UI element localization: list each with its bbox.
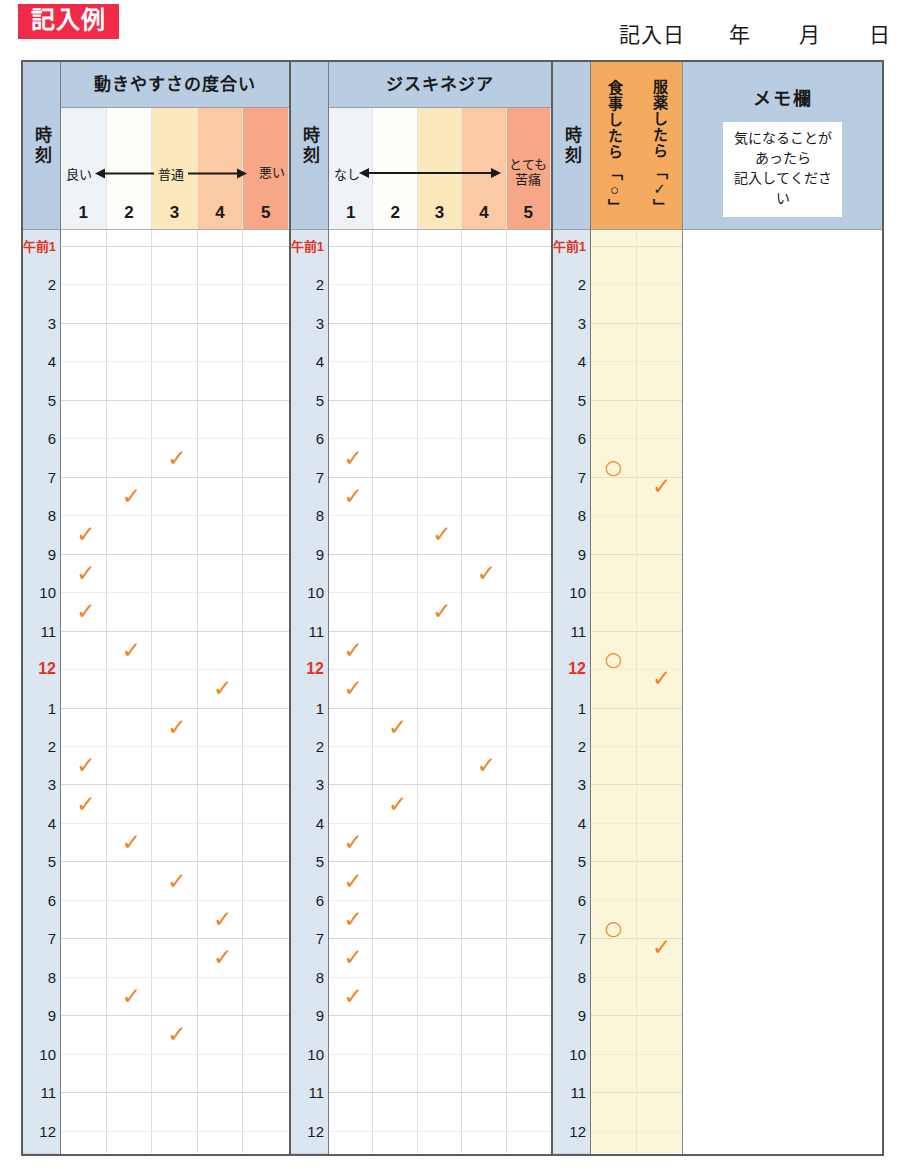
time-label-1: 2 <box>578 277 586 292</box>
medication-header-cell: 服薬したら 「✓」 <box>637 62 683 229</box>
grid-hline-18 <box>61 938 289 939</box>
scale-number-4: 4 <box>462 203 505 223</box>
time-label-21: 10 <box>307 1046 324 1061</box>
time-label-14: 3 <box>578 777 586 792</box>
grid-hline-5 <box>329 438 551 439</box>
time-label-0: 午前1 <box>23 240 56 253</box>
grid-hline-15 <box>61 823 289 824</box>
time-label-13: 2 <box>48 738 56 753</box>
mm-hline-17 <box>637 900 682 901</box>
mm-hline-6 <box>637 477 682 478</box>
scale-number-3: 3 <box>418 203 461 223</box>
mm-hline-16 <box>591 861 636 862</box>
grid-hline-9 <box>329 592 551 593</box>
grid-hline-12 <box>329 708 551 709</box>
grid-hline-16 <box>329 861 551 862</box>
time-labels-mobility: 午前123456789101112123456789101112 <box>23 230 60 1153</box>
dyskinesia-grid[interactable]: ✓✓✓✓✓✓✓✓✓✓✓✓✓✓✓ <box>329 230 551 1153</box>
medication-column[interactable]: ✓✓✓ <box>637 230 682 1153</box>
grid-hline-21 <box>61 1054 289 1055</box>
mm-hline-3 <box>591 361 636 362</box>
mm-hline-6 <box>591 477 636 478</box>
grid-hline-23 <box>61 1131 289 1132</box>
mm-hline-19 <box>591 977 636 978</box>
time-label-6: 7 <box>316 469 324 484</box>
time-label-22: 11 <box>570 1085 586 1100</box>
memo-writing-area[interactable] <box>683 230 882 1153</box>
mm-hline-21 <box>637 1054 682 1055</box>
scale-number-3: 3 <box>152 203 197 223</box>
mm-hline-14 <box>591 784 636 785</box>
time-label-1: 2 <box>316 277 324 292</box>
grid-hline-20 <box>329 1015 551 1016</box>
mm-hline-11 <box>591 669 636 670</box>
mm-hline-5 <box>637 438 682 439</box>
day-unit: 日 <box>869 18 891 48</box>
time-labels-mealmed: 午前123456789101112123456789101112 <box>553 230 590 1153</box>
grid-hline-18 <box>329 938 551 939</box>
mm-hline-13 <box>637 746 682 747</box>
mobility-grid[interactable]: ✓✓✓✓✓✓✓✓✓✓✓✓✓✓✓✓ <box>61 230 289 1153</box>
time-label-12: 1 <box>48 700 56 715</box>
scale-col-3: 3 <box>418 108 462 229</box>
time-label-12: 1 <box>316 700 324 715</box>
time-label-20: 9 <box>48 1008 56 1023</box>
scale-number-1: 1 <box>329 203 372 223</box>
mm-hline-22 <box>591 1092 636 1093</box>
time-label-17: 6 <box>316 892 324 907</box>
grid-hline-2 <box>329 323 551 324</box>
dyskinesia-title: ジスキネジア <box>329 62 551 108</box>
time-header-label-2: 時刻 <box>297 126 322 166</box>
time-label-11: 12 <box>38 661 56 677</box>
time-label-15: 4 <box>316 815 324 830</box>
grid-hline-4 <box>329 400 551 401</box>
time-label-7: 8 <box>48 508 56 523</box>
time-label-9: 10 <box>307 585 324 600</box>
grid-hline-14 <box>329 784 551 785</box>
grid-hline-8 <box>61 554 289 555</box>
grid-hline-13 <box>329 746 551 747</box>
scale-col-2: 2 <box>107 108 153 229</box>
mobility-time-column: 時刻 午前123456789101112123456789101112 <box>23 62 61 1154</box>
mm-hline-16 <box>637 861 682 862</box>
mm-hline-10 <box>591 631 636 632</box>
mm-hline-15 <box>591 823 636 824</box>
memo-header: メモ欄 気になることが あったら 記入してください <box>683 62 882 230</box>
grid-hline-12 <box>61 708 289 709</box>
time-label-7: 8 <box>316 508 324 523</box>
grid-hline-0 <box>61 246 289 247</box>
mm-hline-19 <box>637 977 682 978</box>
scale-col-1: 1 <box>329 108 373 229</box>
mm-hline-5 <box>591 438 636 439</box>
time-label-1: 2 <box>48 277 56 292</box>
mm-hline-17 <box>591 900 636 901</box>
time-label-21: 10 <box>39 1046 56 1061</box>
mealmed-grid[interactable]: ○○○ ✓✓✓ <box>591 230 682 1153</box>
time-header-label-3: 時刻 <box>559 126 584 166</box>
grid-hline-4 <box>61 400 289 401</box>
mm-hline-11 <box>637 669 682 670</box>
time-label-0: 午前1 <box>553 240 586 253</box>
mm-hline-20 <box>591 1015 636 1016</box>
time-label-4: 5 <box>48 392 56 407</box>
scale-col-5: 5 <box>243 108 289 229</box>
mm-hline-20 <box>637 1015 682 1016</box>
mm-hline-8 <box>591 554 636 555</box>
scale-number-4: 4 <box>198 203 243 223</box>
time-label-13: 2 <box>578 738 586 753</box>
mm-hline-15 <box>637 823 682 824</box>
time-label-4: 5 <box>578 392 586 407</box>
example-badge: 記入例 <box>18 4 119 39</box>
meal-column[interactable]: ○○○ <box>591 230 637 1153</box>
time-label-17: 6 <box>578 892 586 907</box>
time-label-2: 3 <box>316 315 324 330</box>
mobility-block: 動きやすさの度合い 12345良い悪い普通 ✓✓✓✓✓✓✓✓✓✓✓✓✓✓✓✓ <box>61 62 289 1154</box>
mm-hline-7 <box>637 515 682 516</box>
time-header-label: 時刻 <box>29 126 54 166</box>
mm-hline-8 <box>637 554 682 555</box>
grid-hline-19 <box>329 977 551 978</box>
mobility-title: 動きやすさの度合い <box>61 62 289 108</box>
grid-hline-10 <box>329 631 551 632</box>
time-label-11: 12 <box>568 661 586 677</box>
mobility-scale-legend: 12345良い悪い普通 <box>61 108 289 230</box>
